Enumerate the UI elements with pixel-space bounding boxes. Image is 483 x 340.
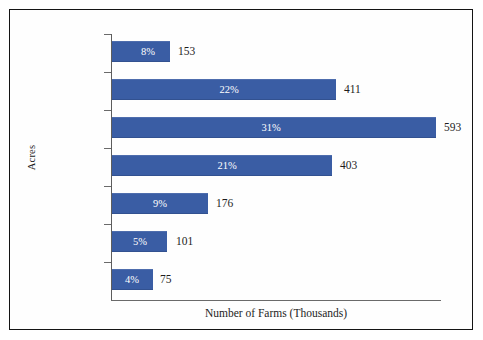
- bar-percent-label: 31%: [249, 117, 293, 138]
- bar-value-label: 411: [344, 79, 361, 100]
- bar-percent-label: 8%: [126, 41, 170, 62]
- y-axis-tick: [104, 186, 111, 187]
- bar-value-label: 101: [176, 231, 193, 252]
- y-axis-tick: [104, 110, 111, 111]
- bar-value-label: 75: [160, 269, 172, 290]
- bar-value-label: 593: [444, 117, 461, 138]
- y-axis-title: Acres: [26, 128, 37, 188]
- y-axis-tick: [104, 148, 111, 149]
- plot-area: 1 to 9 8% 153 10 to 49 22% 411 50 to 179…: [10, 10, 472, 329]
- bar-percent-label: 21%: [205, 155, 249, 176]
- bar-value-label: 176: [216, 193, 233, 214]
- chart-frame: 1 to 9 8% 153 10 to 49 22% 411 50 to 179…: [9, 9, 473, 330]
- bar-percent-label: 9%: [138, 193, 182, 214]
- bar-percent-label: 22%: [207, 79, 251, 100]
- x-axis-title: Number of Farms (Thousands): [111, 307, 441, 319]
- y-axis-tick: [104, 34, 111, 35]
- y-axis-tick: [104, 224, 111, 225]
- bar-percent-label: 5%: [118, 231, 162, 252]
- y-axis-tick: [104, 72, 111, 73]
- bar-percent-label: 4%: [111, 269, 153, 290]
- bar-value-label: 403: [340, 155, 357, 176]
- x-axis-line: [111, 300, 441, 301]
- bar-value-label: 153: [178, 41, 195, 62]
- y-axis-tick: [104, 262, 111, 263]
